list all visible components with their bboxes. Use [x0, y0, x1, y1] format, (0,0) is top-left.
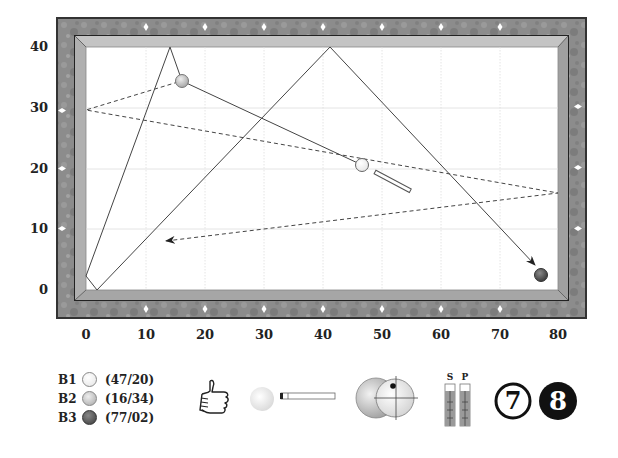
x-tick-20: 20 [185, 327, 225, 342]
legend-row-b2: B2 (16/34) [58, 389, 154, 408]
level-number-8: 8 [539, 385, 577, 417]
legend-coord: (16/34) [105, 392, 154, 406]
x-tick-10: 10 [126, 327, 166, 342]
ball-b2-icon [82, 391, 97, 406]
ball-b1-icon [82, 372, 97, 387]
table-frame [57, 18, 586, 318]
gauge-label-s: S [444, 372, 456, 382]
x-tick-40: 40 [303, 327, 343, 342]
legend-label: B1 [58, 373, 82, 387]
x-tick-70: 70 [480, 327, 520, 342]
x-tick-60: 60 [421, 327, 461, 342]
ball-legend: B1 (47/20) B2 (16/34) B3 (77/02) [58, 370, 154, 427]
ball-b3-icon [82, 410, 97, 425]
y-tick-20: 20 [8, 161, 48, 176]
ball-b1 [356, 159, 369, 172]
y-tick-30: 30 [8, 100, 48, 115]
legend-coord: (77/02) [105, 411, 154, 425]
x-tick-50: 50 [362, 327, 402, 342]
speed-power-gauge[interactable] [445, 384, 470, 426]
x-tick-0: 0 [66, 327, 106, 342]
cue-strike-icon[interactable] [250, 387, 335, 411]
y-tick-40: 40 [8, 39, 48, 54]
thumbs-up-icon[interactable] [196, 377, 232, 419]
legend-row-b1: B1 (47/20) [58, 370, 154, 389]
level-number-7: 7 [496, 386, 530, 416]
legend-coord: (47/20) [105, 373, 154, 387]
ball-b3 [535, 269, 548, 282]
ball-b2 [176, 75, 189, 88]
x-tick-80: 80 [538, 327, 578, 342]
y-tick-10: 10 [8, 221, 48, 236]
gauge-label-p: P [459, 372, 471, 382]
legend-label: B3 [58, 411, 82, 425]
legend-row-b3: B3 (77/02) [58, 408, 154, 427]
ball-hit-point-icon[interactable] [356, 376, 418, 420]
x-tick-30: 30 [244, 327, 284, 342]
legend-label: B2 [58, 392, 82, 406]
y-tick-0: 0 [8, 282, 48, 297]
